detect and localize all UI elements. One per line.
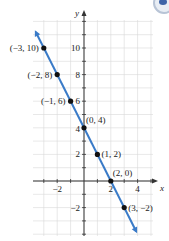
x-axis-label: x	[159, 183, 164, 193]
x-tick-label: 4	[135, 184, 140, 194]
data-line	[35, 30, 137, 233]
data-point-label: (−1, 6)	[41, 96, 66, 106]
data-point-label: (2, 0)	[113, 168, 133, 178]
data-point	[68, 99, 73, 104]
data-point	[55, 72, 60, 77]
data-point	[81, 125, 86, 130]
data-point	[41, 45, 46, 50]
y-axis-label: y	[74, 8, 79, 18]
data-point-label: (−3, 10)	[10, 43, 39, 53]
x-axis-arrow-icon	[152, 179, 158, 184]
y-tick-label: 4	[76, 124, 81, 134]
corner-badge-dot	[159, 0, 167, 5]
data-point-label: (−2, 8)	[28, 70, 53, 80]
y-axis-arrow-icon	[82, 10, 87, 16]
data-point	[122, 205, 127, 210]
y-tick-label: −2	[70, 203, 80, 213]
y-tick-label: 2	[76, 149, 81, 159]
y-tick-label: 10	[71, 43, 81, 53]
data-point	[95, 152, 100, 157]
data-point	[108, 178, 113, 183]
x-tick-label: −2	[52, 184, 62, 194]
line-graph	[36, 32, 137, 232]
data-point-label: (1, 2)	[101, 149, 121, 159]
data-point-label: (3, −2)	[128, 203, 153, 213]
y-tick-label: 8	[76, 70, 81, 80]
data-point-label: (0, 4)	[86, 115, 106, 125]
coordinate-plane-chart: xy −224−2268104 (−3, 10)(−2, 8)(−1, 6)(0…	[0, 0, 169, 241]
y-tick-label: 6	[76, 96, 81, 106]
